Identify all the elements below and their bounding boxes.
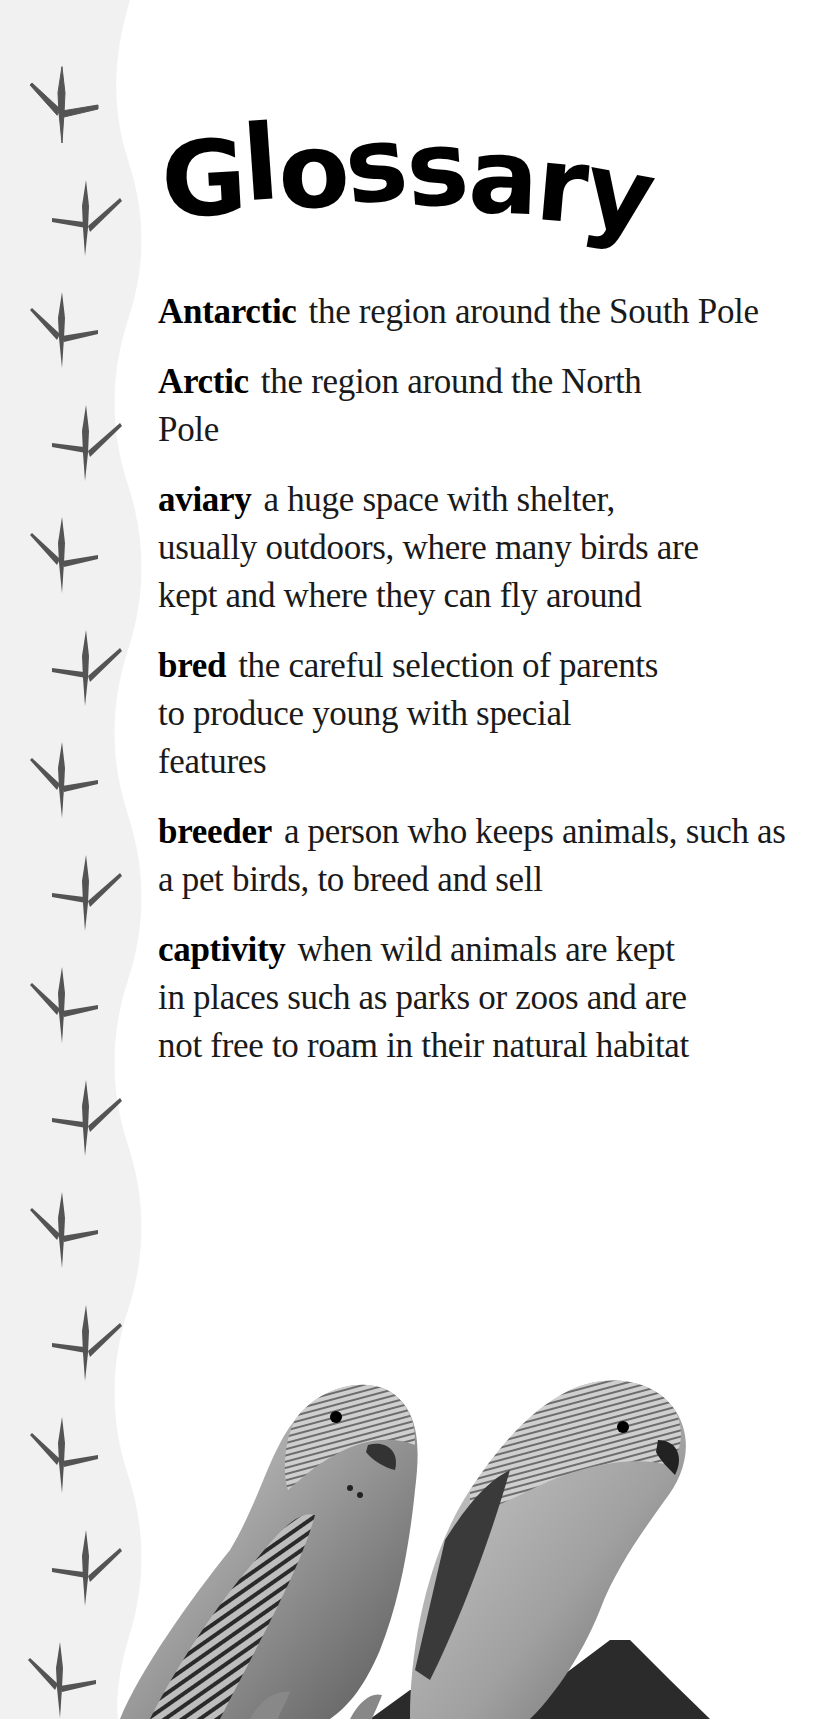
glossary-term: breeder [158,812,272,851]
glossary-term: Antarctic [158,292,297,331]
glossary-entry: breedera person who keeps animals, such … [158,808,798,904]
title-letter: s [339,101,411,229]
title-letter: l [239,101,281,225]
bird-footprint-icon [20,1190,100,1270]
glossary-entry: aviarya huge space with shelter, usually… [158,476,718,620]
title-letter: G [158,116,248,242]
bird-footprint-icon [20,740,100,820]
bird-footprint-icon [20,1415,100,1495]
glossary-list: Antarcticthe region around the South Pol… [158,288,778,1092]
title-letter: a [467,115,539,239]
glossary-definition: the careful selection of parents to prod… [158,646,658,781]
glossary-term: aviary [158,480,251,519]
glossary-term: bred [158,646,226,685]
glossary-entry: Antarcticthe region around the South Pol… [158,288,778,336]
bird-footprint-icon [20,65,100,145]
bird-footprint-icon [48,403,128,483]
glossary-entry: bredthe careful selection of parents to … [158,642,678,786]
glossary-term: Arctic [158,362,249,401]
glossary-entry: Arcticthe region around the North Pole [158,358,658,454]
glossary-term: captivity [158,930,286,969]
glossary-entry: captivitywhen wild animals are kept in p… [158,926,698,1070]
bird-footprint-icon [48,628,128,708]
budgerigars-photo [110,1340,710,1719]
bird-footprint-icon [18,1640,98,1719]
bird-footprint-icon [20,515,100,595]
bird-footprint-icon [48,1078,128,1158]
title-letter: s [403,106,471,232]
bird-footprint-icon [48,178,128,258]
title-letter: o [276,109,350,233]
page-title: Glossary [162,108,682,258]
glossary-definition: the region around the South Pole [309,292,759,331]
bird-footprint-icon [20,965,100,1045]
bird-footprint-icon [20,290,100,370]
bird-footprint-icon [48,853,128,933]
